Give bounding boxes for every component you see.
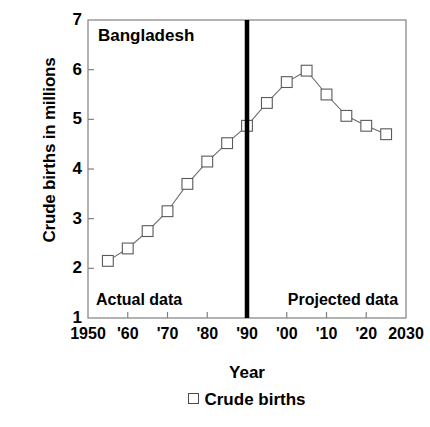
- data-point-marker: [222, 138, 233, 149]
- chart-title: Bangladesh: [98, 26, 194, 46]
- legend-label-crude-births: Crude births: [204, 390, 305, 409]
- x-axis-label: Year: [88, 363, 406, 383]
- legend-marker-icon: [188, 393, 199, 404]
- data-point-marker: [102, 255, 113, 266]
- annotation-2: Projected data: [0, 291, 398, 309]
- data-point-marker: [301, 65, 312, 76]
- data-point-marker: [341, 110, 352, 121]
- chart-legend: Crude births: [88, 390, 406, 410]
- y-tick-label-6: 6: [58, 61, 82, 78]
- chart-figure: Crude births in millions Year Crude birt…: [0, 0, 430, 427]
- data-point-marker: [182, 179, 193, 190]
- y-tick-label-5: 5: [58, 110, 82, 127]
- data-point-marker: [122, 243, 133, 254]
- data-point-marker: [261, 98, 272, 109]
- y-tick-label-3: 3: [58, 210, 82, 227]
- data-point-marker: [162, 206, 173, 217]
- data-point-marker: [281, 77, 292, 88]
- y-tick-label-7: 7: [58, 11, 82, 28]
- data-point-marker: [361, 120, 372, 131]
- data-point-marker: [321, 89, 332, 100]
- data-point-marker: [381, 129, 392, 140]
- x-tick-label-2030: 2030: [378, 326, 430, 342]
- data-point-marker: [142, 226, 153, 237]
- y-tick-label-2: 2: [58, 259, 82, 276]
- y-axis-label: Crude births in millions: [40, 0, 60, 300]
- y-tick-label-1: 1: [58, 309, 82, 326]
- y-tick-label-4: 4: [58, 160, 82, 177]
- data-point-marker: [202, 156, 213, 167]
